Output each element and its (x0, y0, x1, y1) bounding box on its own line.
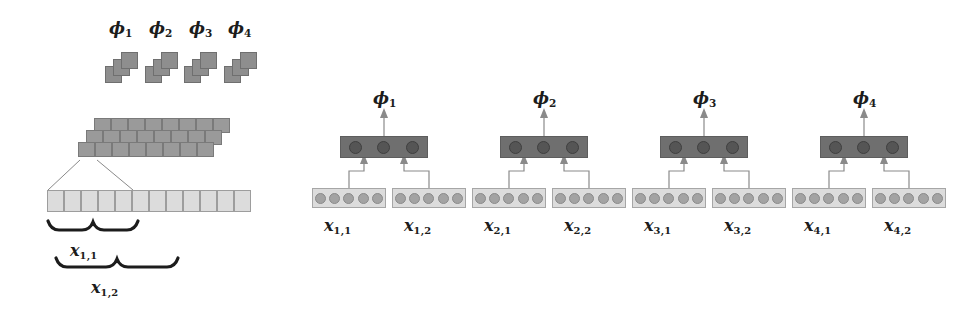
hidden-layer-box (820, 136, 908, 158)
network-module-2: ϕ2 x2,1 x2,2 (462, 0, 632, 250)
brace-group (0, 0, 280, 310)
input-unit (678, 193, 689, 204)
input-unit (729, 193, 740, 204)
input-layer-box-left (632, 188, 706, 208)
hidden-layer-box (660, 136, 748, 158)
input-unit (932, 193, 943, 204)
hidden-unit (857, 141, 870, 154)
input-wire-right (884, 161, 909, 188)
input-layer-box-left (792, 188, 866, 208)
input-unit (715, 193, 726, 204)
output-arrow-head (540, 108, 548, 118)
brace-label-x-1-1: x1,1 (70, 241, 97, 261)
input-unit (809, 193, 820, 204)
input-unit (395, 193, 406, 204)
input-unit (372, 193, 383, 204)
input-layer-box-left (472, 188, 546, 208)
input-unit (503, 193, 514, 204)
input-label-left: x1,1 (324, 216, 351, 236)
input-unit (743, 193, 754, 204)
input-unit (823, 193, 834, 204)
input-unit (583, 193, 594, 204)
input-unit (649, 193, 660, 204)
input-unit (423, 193, 434, 204)
input-unit (598, 193, 609, 204)
input-unit (918, 193, 929, 204)
input-layer-box-right (712, 188, 786, 208)
input-unit (315, 193, 326, 204)
input-unit (489, 193, 500, 204)
hidden-unit (377, 141, 390, 154)
input-unit (555, 193, 566, 204)
input-label-left: x2,1 (484, 216, 511, 236)
input-label-right: x2,2 (564, 216, 591, 236)
input-unit (438, 193, 449, 204)
input-label-right: x1,2 (404, 216, 431, 236)
hidden-unit (537, 141, 550, 154)
input-unit (795, 193, 806, 204)
hidden-unit (829, 141, 842, 154)
hidden-unit (566, 141, 579, 154)
input-label-left: x3,1 (644, 216, 671, 236)
input-wire-right (564, 161, 589, 188)
network-module-1: ϕ1 x1,1 x1,2 (302, 0, 472, 250)
hidden-unit (726, 141, 739, 154)
output-arrow-head (700, 108, 708, 118)
module-wiring (302, 0, 472, 250)
input-unit (663, 193, 674, 204)
input-wire-left (349, 161, 364, 188)
input-unit (358, 193, 369, 204)
input-layer-box-left (312, 188, 386, 208)
output-arrow-head (860, 108, 868, 118)
input-label-right: x4,2 (884, 216, 911, 236)
input-unit (569, 193, 580, 204)
input-unit (635, 193, 646, 204)
hidden-unit (669, 141, 682, 154)
input-unit (903, 193, 914, 204)
input-layer-box-right (872, 188, 946, 208)
input-unit (692, 193, 703, 204)
hidden-layer-box (500, 136, 588, 158)
hidden-unit (349, 141, 362, 154)
input-unit (852, 193, 863, 204)
input-unit (343, 193, 354, 204)
input-wire-left (829, 161, 844, 188)
input-unit (889, 193, 900, 204)
hidden-unit (886, 141, 899, 154)
input-unit (329, 193, 340, 204)
brace-label-x-1-2: x1,2 (91, 278, 118, 298)
input-label-left: x4,1 (804, 216, 831, 236)
input-wire-right (404, 161, 429, 188)
input-unit (518, 193, 529, 204)
module-wiring (462, 0, 632, 250)
input-unit (409, 193, 420, 204)
hidden-layer-box (340, 136, 428, 158)
network-module-3: ϕ3 x3,1 x3,2 (622, 0, 792, 250)
figure-canvas: ϕ1 ϕ2 ϕ3 ϕ4 (0, 0, 976, 310)
module-wiring (782, 0, 952, 250)
hidden-unit (509, 141, 522, 154)
input-label-right: x3,2 (724, 216, 751, 236)
input-wire-left (509, 161, 524, 188)
input-layer-box-right (392, 188, 466, 208)
brace-x-1-1 (48, 221, 138, 230)
input-layer-box-right (552, 188, 626, 208)
hidden-unit (697, 141, 710, 154)
input-unit (758, 193, 769, 204)
input-wire-right (724, 161, 749, 188)
input-unit (532, 193, 543, 204)
module-wiring (622, 0, 792, 250)
network-module-4: ϕ4 x4,1 x4,2 (782, 0, 952, 250)
output-arrow-head (380, 108, 388, 118)
input-unit (475, 193, 486, 204)
hidden-unit (406, 141, 419, 154)
input-unit (838, 193, 849, 204)
input-unit (875, 193, 886, 204)
input-wire-left (669, 161, 684, 188)
